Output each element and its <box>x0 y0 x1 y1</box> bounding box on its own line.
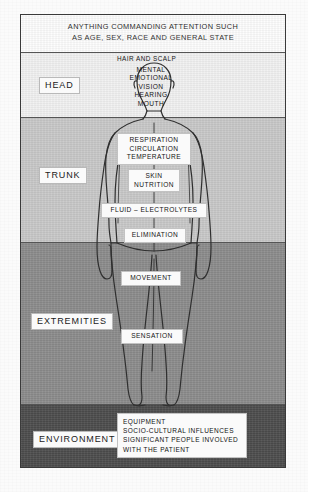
label-sensation: SENSATION <box>121 329 183 344</box>
label-circulation: CIRCULATION <box>122 145 186 154</box>
label-with-the-patient: WITH THE PATIENT <box>123 445 241 454</box>
label-hearing: HEARING <box>128 91 174 99</box>
header-caption: ANYTHING COMMANDING ATTENTION SUCH AS AG… <box>21 21 285 43</box>
label-respiration: RESPIRATION <box>122 136 186 145</box>
band-header: ANYTHING COMMANDING ATTENTION SUCH AS AG… <box>21 15 285 53</box>
label-socio-cultural: SOCIO-CULTURAL INFLUENCES <box>123 426 241 435</box>
label-mental: MENTAL <box>128 66 174 74</box>
header-caption-line1: ANYTHING COMMANDING ATTENTION SUCH <box>21 21 285 32</box>
header-caption-line2: AS AGE, SEX, RACE AND GENERAL STATE <box>21 32 285 43</box>
label-vitals: RESPIRATION CIRCULATION TEMPERATURE <box>117 133 191 165</box>
band-label-trunk: TRUNK <box>39 167 87 184</box>
band-label-environment: ENVIRONMENT <box>33 431 121 448</box>
label-skin-nutrition: SKIN NUTRITION <box>128 169 180 192</box>
label-mouth: MOUTH <box>128 100 174 108</box>
label-temperature: TEMPERATURE <box>122 153 186 162</box>
band-label-extremities: EXTREMITIES <box>31 313 113 330</box>
label-head-items: MENTAL EMOTIONAL VISION HEARING MOUTH <box>126 65 176 109</box>
label-skin: SKIN <box>133 172 175 181</box>
label-vision: VISION <box>128 83 174 91</box>
label-hair-and-scalp: HAIR AND SCALP <box>117 55 176 63</box>
label-environment-items: EQUIPMENT SOCIO-CULTURAL INFLUENCES SIGN… <box>117 413 247 458</box>
band-label-head: HEAD <box>39 77 80 94</box>
diagram-frame: ANYTHING COMMANDING ATTENTION SUCH AS AG… <box>20 14 286 468</box>
label-equipment: EQUIPMENT <box>123 417 241 426</box>
label-elimination: ELIMINATION <box>124 228 186 243</box>
label-fluid-electrolytes: FLUID – ELECTROLYTES <box>101 203 207 218</box>
label-significant-people: SIGNIFICANT PEOPLE INVOLVED <box>123 435 241 444</box>
label-movement: MOVEMENT <box>121 271 181 286</box>
label-nutrition: NUTRITION <box>133 181 175 190</box>
label-emotional: EMOTIONAL <box>128 74 174 82</box>
